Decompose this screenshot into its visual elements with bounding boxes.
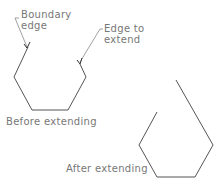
edge-to-extend-label-line2: extend <box>104 35 140 45</box>
edge-to-extend-leader <box>80 29 103 62</box>
edge-to-extend-label-line1: Edge to <box>104 24 144 34</box>
before-shape <box>14 47 86 110</box>
boundary-edge-label-line2: edge <box>21 21 47 31</box>
before-extending-label: Before extending <box>6 117 97 127</box>
after-shape <box>139 80 213 177</box>
after-extending-label: After extending <box>66 164 148 174</box>
boundary-edge-label-line1: Boundary <box>21 10 72 20</box>
edge-to-extend-arrow <box>77 58 82 64</box>
